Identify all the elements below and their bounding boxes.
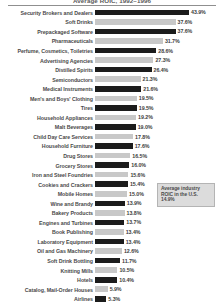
- bar-value-label: 37.6%: [178, 19, 193, 25]
- bar-row: Bakery Products13.8%: [0, 208, 224, 218]
- bar-track: 19.5%: [95, 94, 224, 104]
- bar: [95, 105, 137, 111]
- bar-row: Knitting Mills10.5%: [0, 266, 224, 276]
- bar-row: Tires19.5%: [0, 103, 224, 113]
- bar-row: Distilled Spirits26.4%: [0, 65, 224, 75]
- bar-value-label: 19.5%: [139, 105, 154, 111]
- bar-row: Semiconductors21.3%: [0, 75, 224, 85]
- bar-row: Engines and Turbines13.7%: [0, 218, 224, 228]
- bar-value-label: 10.4%: [119, 277, 134, 283]
- bar-value-label: 31.7%: [165, 38, 180, 44]
- bar-track: 5.3%: [95, 294, 224, 304]
- title-divider: [8, 5, 216, 6]
- bar-track: 15.6%: [95, 170, 224, 180]
- bar-category-label: Tires: [0, 105, 95, 111]
- bar: [95, 143, 133, 149]
- bar: [95, 48, 156, 54]
- bar-category-label: Catalog, Mail-Order Houses: [0, 287, 95, 293]
- bar-track: 19.5%: [95, 103, 224, 113]
- bar: [95, 38, 163, 44]
- bar-row: Household Appliances19.2%: [0, 113, 224, 123]
- callout-value: 14.9%: [161, 197, 212, 203]
- bar-category-label: Wine and Brandy: [0, 201, 95, 207]
- bar: [95, 267, 117, 273]
- bar-value-label: 21.3%: [143, 76, 158, 82]
- bar: [95, 239, 124, 245]
- bar: [95, 181, 128, 187]
- bar-track: 21.6%: [95, 84, 224, 94]
- bar-row: Hotels10.4%: [0, 275, 224, 285]
- bar-category-label: Security Brokers and Dealers: [0, 10, 95, 16]
- bar-row: Book Publishing13.4%: [0, 228, 224, 238]
- bar-track: 19.0%: [95, 123, 224, 133]
- bar-value-label: 16.5%: [132, 153, 147, 159]
- bar-value-label: 16.0%: [131, 162, 146, 168]
- bar-track: 21.3%: [95, 75, 224, 85]
- bar-row: Soft Drink Bottling11.7%: [0, 256, 224, 266]
- bar-category-label: Engines and Turbines: [0, 220, 95, 226]
- average-industry-roic-callout: Average industry ROIC in the U.S. 14.9%: [157, 183, 215, 207]
- bar-category-label: Household Furniture: [0, 143, 95, 149]
- bar: [95, 57, 153, 63]
- bar-value-label: 26.4%: [154, 67, 169, 73]
- bar-rows-container: Security Brokers and Dealers43.9%Soft Dr…: [0, 8, 224, 304]
- bar-track: 27.3%: [95, 56, 224, 66]
- bar-row: Pharmaceuticals31.7%: [0, 37, 224, 47]
- bar-value-label: 15.6%: [130, 172, 145, 178]
- bar-category-label: Advertising Agencies: [0, 58, 95, 64]
- bar: [95, 67, 152, 73]
- bar: [95, 286, 108, 292]
- bar-track: 37.6%: [95, 18, 224, 28]
- callout-label: Average industry ROIC in the U.S.: [161, 186, 200, 197]
- bar: [95, 277, 117, 283]
- bar-row: Perfume, Cosmetics, Toiletries28.6%: [0, 46, 224, 56]
- bar-value-label: 37.6%: [178, 28, 193, 34]
- bar-value-label: 28.6%: [158, 48, 173, 54]
- bar-track: 16.0%: [95, 161, 224, 171]
- bar-track: 19.2%: [95, 113, 224, 123]
- bar-track: 17.6%: [95, 142, 224, 152]
- bar-category-label: Household Appliances: [0, 115, 95, 121]
- bar-row: Grocery Stores16.0%: [0, 161, 224, 171]
- bar: [95, 19, 176, 25]
- bar-track: 31.7%: [95, 37, 224, 47]
- bar-track: 43.9%: [95, 8, 224, 18]
- bar: [95, 134, 133, 140]
- bar-value-label: 13.4%: [126, 239, 141, 245]
- bar-row: Malt Beverages19.0%: [0, 123, 224, 133]
- bar-track: 13.8%: [95, 208, 224, 218]
- bar-category-label: Malt Beverages: [0, 124, 95, 130]
- bar-value-label: 5.3%: [108, 296, 120, 302]
- bar: [95, 124, 136, 130]
- bar-value-label: 10.5%: [119, 267, 134, 273]
- bar-row: Airlines5.3%: [0, 294, 224, 304]
- bar: [95, 172, 128, 178]
- bar-row: Catalog, Mail-Order Houses5.9%: [0, 285, 224, 295]
- bar-row: Household Furniture17.6%: [0, 142, 224, 152]
- bar-category-label: Airlines: [0, 296, 95, 302]
- bar-track: 13.7%: [95, 218, 224, 228]
- bar-value-label: 15.4%: [130, 181, 145, 187]
- bar-category-label: Semiconductors: [0, 77, 95, 83]
- bar-track: 16.5%: [95, 151, 224, 161]
- bar-value-label: 13.8%: [127, 210, 142, 216]
- bar-value-label: 17.6%: [135, 143, 150, 149]
- bar-row: Soft Drinks37.6%: [0, 18, 224, 28]
- bar-category-label: Medical Instruments: [0, 86, 95, 92]
- bar-value-label: 13.4%: [126, 229, 141, 235]
- bar-category-label: Hotels: [0, 277, 95, 283]
- bar: [95, 220, 124, 226]
- bar-category-label: Distilled Spirits: [0, 67, 95, 73]
- bar-row: Advertising Agencies27.3%: [0, 56, 224, 66]
- bar-value-label: 17.8%: [135, 134, 150, 140]
- bar: [95, 162, 129, 168]
- bar-track: 28.6%: [95, 46, 224, 56]
- bar-row: Men's and Boys' Clothing19.5%: [0, 94, 224, 104]
- bar-value-label: 5.9%: [110, 286, 122, 292]
- bar-track: 12.6%: [95, 247, 224, 257]
- bar-value-label: 13.7%: [126, 219, 141, 225]
- bar: [95, 296, 106, 302]
- bar: [95, 258, 120, 264]
- bar-value-label: 19.2%: [138, 114, 153, 120]
